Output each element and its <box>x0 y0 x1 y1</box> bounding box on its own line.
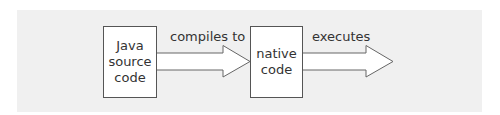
native-code-label: native code <box>256 46 297 78</box>
java-source-code-label: Java source code <box>108 38 151 86</box>
java-source-code-node: Java source code <box>103 26 157 98</box>
executes-arrow-icon <box>302 46 393 78</box>
compiles-to-label: compiles to <box>170 30 245 44</box>
executes-label: executes <box>312 30 370 44</box>
compiles-to-arrow-icon <box>156 46 250 78</box>
native-code-node: native code <box>250 26 303 98</box>
